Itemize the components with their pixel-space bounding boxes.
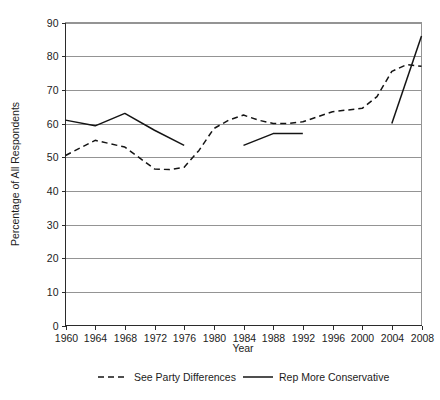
x-tick-label: 1980 [203,332,227,344]
solid-segment-1 [244,134,303,146]
y-axis-group: 0102030405060708090 [47,17,66,332]
y-tick-label: 0 [53,320,59,332]
y-tick-label: 50 [47,151,59,163]
y-axis-title: Percentage of All Respondents [9,102,21,246]
legend: See Party Differences Rep More Conservat… [98,371,389,383]
legend-label-see-party-differences: See Party Differences [134,371,236,383]
y-tick-label: 70 [47,84,59,96]
y-tick-label: 20 [47,252,59,264]
x-tick-label: 2004 [381,332,405,344]
x-tick-label: 1964 [84,332,108,344]
legend-label-rep-more-conservative: Rep More Conservative [279,371,389,383]
x-tick-label: 2008 [411,332,435,344]
plot-frame [66,23,422,326]
x-axis-title: Year [232,342,254,354]
series-see-party-differences [66,65,422,170]
x-tick-label: 1968 [114,332,138,344]
x-tick-label: 1992 [292,332,316,344]
y-tick-label: 10 [47,286,59,298]
y-tick-label: 80 [47,50,59,62]
x-tick-label: 1976 [173,332,197,344]
solid-segment-2 [392,36,422,124]
y-tick-label: 60 [47,118,59,130]
x-tick-label: 1996 [322,332,346,344]
gridlines-group [66,24,422,293]
line-chart: 0102030405060708090 19601964196819721976… [0,0,440,400]
x-tick-label: 1960 [55,332,79,344]
x-axis-group: 1960196419681972197619801984198819921996… [55,326,435,344]
solid-segment-0 [66,113,185,145]
chart-container: 0102030405060708090 19601964196819721976… [0,0,440,400]
x-tick-label: 2000 [351,332,375,344]
x-tick-label: 1988 [262,332,286,344]
y-tick-label: 30 [47,219,59,231]
y-tick-label: 90 [47,17,59,29]
x-tick-label: 1972 [144,332,168,344]
y-tick-label: 40 [47,185,59,197]
